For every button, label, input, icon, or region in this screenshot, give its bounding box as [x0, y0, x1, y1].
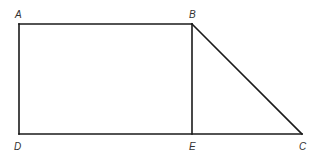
- vertex-label-b: B: [189, 9, 196, 20]
- segment-bc: [192, 24, 302, 134]
- geometry-diagram: A B D E C: [0, 0, 320, 156]
- vertex-label-a: A: [14, 9, 22, 20]
- vertex-label-c: C: [299, 141, 307, 152]
- vertex-label-e: E: [189, 141, 196, 152]
- diagram-svg: A B D E C: [0, 0, 320, 156]
- vertex-label-d: D: [14, 141, 21, 152]
